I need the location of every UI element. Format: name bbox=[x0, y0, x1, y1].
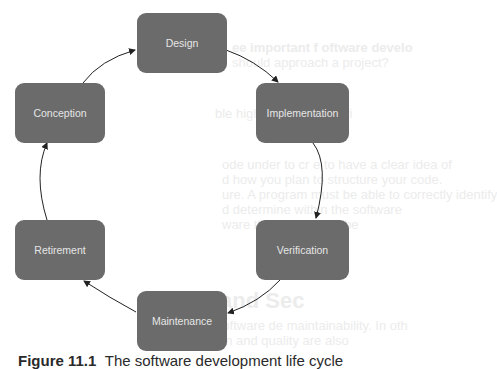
node-implementation: Implementation bbox=[256, 83, 349, 143]
arrow-implementation-verification bbox=[313, 143, 322, 218]
caption-text: The software development life cycle bbox=[105, 352, 343, 369]
node-label: Implementation bbox=[267, 107, 339, 119]
node-label: Maintenance bbox=[152, 315, 212, 327]
node-verification: Verification bbox=[256, 220, 349, 280]
arrow-conception-design bbox=[83, 50, 135, 83]
arrow-verification-maintenance bbox=[228, 280, 280, 313]
node-maintenance: Maintenance bbox=[137, 291, 227, 351]
node-conception: Conception bbox=[15, 83, 105, 143]
arrow-maintenance-retirement bbox=[84, 281, 136, 312]
node-label: Retirement bbox=[34, 244, 85, 256]
arrow-design-implementation bbox=[226, 50, 278, 82]
figure-caption: Figure 11.1 The software development lif… bbox=[18, 352, 343, 369]
node-design: Design bbox=[137, 13, 227, 73]
node-label: Verification bbox=[277, 244, 328, 256]
node-retirement: Retirement bbox=[15, 220, 105, 280]
node-label: Design bbox=[166, 37, 199, 49]
arrow-retirement-conception bbox=[40, 143, 47, 220]
node-label: Conception bbox=[33, 107, 86, 119]
caption-figure-number: Figure 11.1 bbox=[18, 352, 96, 369]
